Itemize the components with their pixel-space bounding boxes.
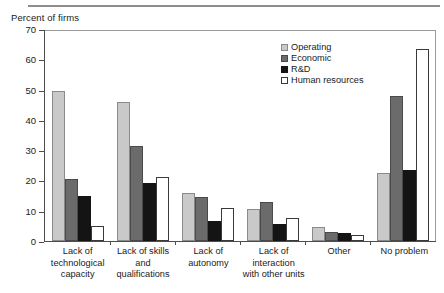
y-tick-label: 70: [25, 25, 36, 35]
y-tick-label: 20: [25, 177, 36, 187]
y-tick-mark: [39, 212, 44, 213]
bar: [377, 173, 390, 241]
bar: [221, 208, 234, 241]
legend-label: Operating: [291, 42, 331, 52]
bar-group: [175, 30, 240, 241]
legend-item: Human resources: [281, 75, 364, 85]
legend-item: R&D: [281, 64, 364, 74]
plot-area: 010203040506070: [44, 30, 436, 242]
bar-groups: [45, 30, 435, 241]
bar: [130, 146, 143, 241]
top-divider-rule: [28, 5, 440, 7]
bar: [143, 183, 156, 241]
bar-group: [45, 30, 110, 241]
bar: [182, 193, 195, 241]
bar: [65, 179, 78, 241]
bar: [156, 177, 169, 241]
x-tick-mark: [305, 241, 306, 245]
x-axis-label: Lack oftechnologicalcapacity: [45, 246, 110, 281]
y-tick-mark: [39, 151, 44, 152]
bar: [208, 221, 221, 241]
y-axis-title: Percent of firms: [11, 12, 79, 23]
bar: [390, 96, 403, 241]
plot-right-border: [435, 30, 436, 242]
bar: [312, 227, 325, 241]
x-axis-labels: Lack oftechnologicalcapacityLack of skil…: [45, 246, 437, 281]
x-axis-label: Lack ofinteractionwith other units: [241, 246, 306, 281]
bar-group: [370, 30, 435, 241]
legend-label: Human resources: [291, 75, 364, 85]
legend-item: Economic: [281, 53, 364, 63]
y-tick-mark: [39, 181, 44, 182]
bar: [351, 235, 364, 241]
y-tick-label: 40: [25, 116, 36, 126]
bar: [247, 209, 260, 241]
legend-swatch-icon: [281, 55, 288, 62]
x-tick-mark: [370, 241, 371, 245]
y-tick-label: 50: [25, 86, 36, 96]
y-tick-mark: [39, 30, 44, 31]
y-tick-mark: [39, 91, 44, 92]
bar: [78, 196, 91, 241]
y-tick-label: 0: [31, 237, 36, 247]
x-axis-label: Other: [306, 246, 371, 281]
bar: [117, 102, 130, 241]
legend-label: Economic: [291, 53, 331, 63]
x-tick-mark: [175, 241, 176, 245]
bar: [416, 49, 429, 241]
y-tick-mark: [39, 242, 44, 243]
legend-swatch-icon: [281, 77, 288, 84]
legend-label: R&D: [291, 64, 310, 74]
chart-figure: Percent of firms 010203040506070 Lack of…: [0, 0, 444, 293]
bar: [260, 202, 273, 241]
chart-legend: OperatingEconomicR&DHuman resources: [281, 42, 364, 85]
legend-item: Operating: [281, 42, 364, 52]
x-axis-label: Lack of skillsandqualifications: [110, 246, 175, 281]
y-tick-label: 60: [25, 56, 36, 66]
x-axis-label: Lack ofautonomy: [176, 246, 241, 281]
y-tick-label: 10: [25, 207, 36, 217]
bar-group: [110, 30, 175, 241]
bar: [273, 224, 286, 241]
y-tick-label: 30: [25, 146, 36, 156]
bar: [52, 91, 65, 241]
bar: [325, 232, 338, 241]
legend-swatch-icon: [281, 44, 288, 51]
bar: [403, 170, 416, 241]
bar: [195, 197, 208, 241]
legend-swatch-icon: [281, 66, 288, 73]
bar: [338, 233, 351, 241]
y-tick-mark: [39, 121, 44, 122]
y-tick-mark: [39, 60, 44, 61]
bar: [91, 226, 104, 241]
x-tick-mark: [240, 241, 241, 245]
x-axis-label: No problem: [372, 246, 437, 281]
bar: [286, 218, 299, 241]
x-tick-mark: [110, 241, 111, 245]
